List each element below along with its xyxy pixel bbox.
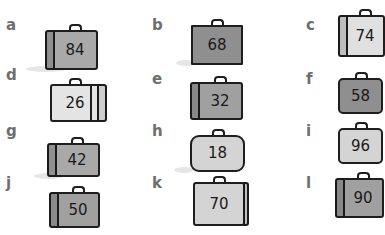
suitcase-number-f: 58 [351, 89, 370, 104]
handle-icon [357, 172, 370, 180]
label-k: k [152, 176, 162, 191]
suitcase-stripe [90, 86, 92, 120]
suitcase-side [49, 192, 59, 228]
handle-icon [359, 9, 372, 17]
suitcase-number-a: 84 [65, 43, 84, 58]
suitcase-side [335, 178, 345, 218]
handle-icon [214, 76, 227, 84]
suitcase-side [338, 15, 348, 57]
label-d: d [6, 68, 17, 83]
suitcase-side [97, 84, 107, 122]
handle-icon [71, 137, 84, 145]
label-e: e [152, 72, 162, 87]
suitcase-a: 84 [52, 30, 98, 70]
suitcase-side [243, 182, 249, 226]
handle-icon [72, 186, 85, 194]
suitcase-f: 58 [338, 78, 383, 114]
suitcase-d: 26 [50, 84, 100, 122]
suitcase-h: 18 [190, 135, 245, 172]
label-a: a [6, 18, 16, 33]
handle-icon [212, 129, 225, 137]
label-f: f [306, 72, 313, 87]
handle-icon [69, 24, 82, 32]
suitcase-e: 32 [197, 82, 243, 120]
suitcase-number-e: 32 [210, 94, 229, 109]
suitcase-i: 96 [338, 128, 383, 164]
suitcase-number-b: 68 [207, 38, 226, 53]
suitcase-l: 90 [342, 178, 384, 218]
label-i: i [306, 124, 311, 139]
label-b: b [152, 18, 163, 33]
label-c: c [306, 18, 315, 33]
suitcase-number-l: 90 [353, 191, 372, 206]
suitcase-j: 50 [56, 192, 100, 228]
suitcase-number-k: 70 [209, 197, 228, 212]
suitcase-number-j: 50 [68, 203, 87, 218]
suitcase-number-i: 96 [351, 139, 370, 154]
suitcase-side [47, 143, 57, 177]
suitcase-number-h: 18 [208, 146, 227, 161]
label-h: h [152, 124, 163, 139]
handle-icon [69, 78, 82, 86]
suitcase-b: 68 [191, 25, 243, 65]
handle-icon [213, 176, 226, 184]
handle-icon [211, 19, 224, 27]
suitcase-side [190, 82, 200, 120]
handle-icon [355, 122, 368, 130]
suitcase-number-c: 74 [355, 29, 374, 44]
suitcase-g: 42 [54, 143, 100, 177]
suitcase-number-d: 26 [65, 96, 84, 111]
label-l: l [306, 176, 311, 191]
suitcase-side [45, 30, 55, 70]
handle-icon [355, 72, 368, 80]
suitcase-number-g: 42 [67, 153, 86, 168]
suitcase-c: 74 [345, 15, 385, 57]
label-g: g [6, 124, 17, 139]
suitcase-k: 70 [193, 182, 245, 226]
label-j: j [6, 176, 11, 191]
